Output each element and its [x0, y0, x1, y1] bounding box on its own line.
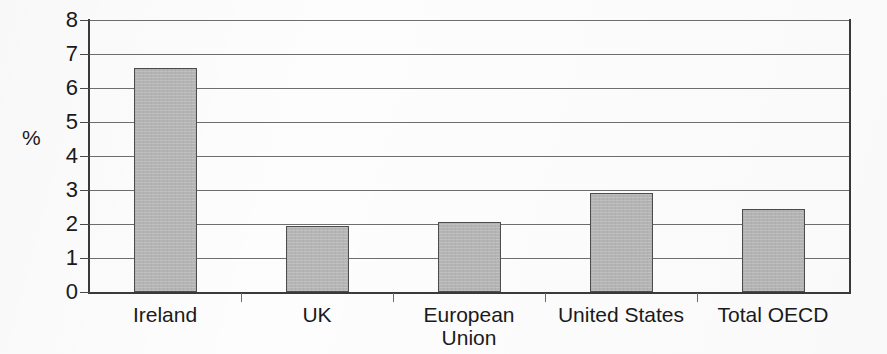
bar — [438, 222, 501, 292]
bar-chart-figure: % 8 7 6 5 4 3 2 1 0 IrelandUKEuropean Un… — [0, 0, 887, 354]
bar — [590, 193, 653, 292]
bar — [742, 209, 805, 292]
bar — [134, 68, 197, 292]
plot-area — [0, 0, 887, 354]
bar — [286, 226, 349, 292]
